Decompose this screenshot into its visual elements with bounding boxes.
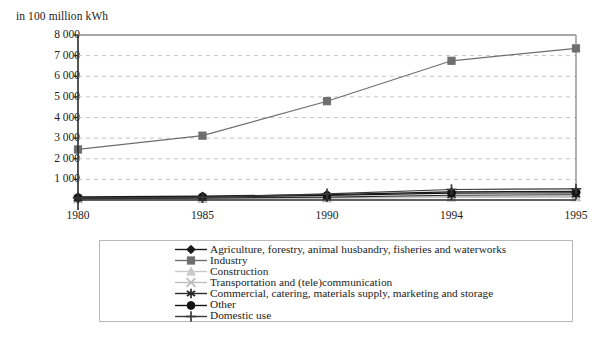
legend-marker-cross-x-icon — [174, 277, 208, 288]
x-axis-tick-label: 1994 — [440, 209, 463, 221]
electricity-consumption-line-chart: in 100 million kWh 01 0002 0003 0004 000… — [0, 0, 615, 340]
data-marker-square — [448, 57, 455, 64]
axes — [74, 35, 576, 210]
chart-legend: Agriculture, forestry, animal husbandry,… — [99, 240, 573, 322]
legend-item[interactable]: Domestic use — [174, 311, 506, 322]
legend-marker-asterisk-icon — [174, 288, 208, 299]
x-axis-tick-label: 1985 — [191, 209, 214, 221]
gridlines — [78, 56, 576, 180]
data-marker-square — [187, 257, 194, 264]
data-marker-square — [572, 45, 579, 52]
legend-marker-square-icon — [174, 255, 208, 266]
legend-marker-plus-icon — [174, 311, 208, 322]
data-marker-square — [199, 132, 206, 139]
data-marker-plus — [186, 311, 196, 321]
legend-marker-triangle-icon — [174, 266, 208, 277]
data-marker-circle — [187, 301, 195, 309]
legend-marker-circle-icon — [174, 300, 208, 311]
data-marker-square — [323, 98, 330, 105]
legend-entries: Agriculture, forestry, animal husbandry,… — [174, 244, 506, 322]
x-axis-tick-label: 1990 — [316, 209, 339, 221]
series-1 — [74, 45, 579, 153]
legend-marker-diamond-icon — [174, 244, 208, 255]
x-axis-tick-label: 1995 — [565, 209, 588, 221]
legend-label: Agriculture, forestry, animal husbandry,… — [208, 244, 506, 255]
x-axis-tick-label: 1980 — [67, 209, 90, 221]
data-marker-diamond — [187, 245, 195, 253]
legend-label: Domestic use — [208, 310, 271, 321]
legend-label: Commercial, catering, materials supply, … — [208, 288, 493, 299]
